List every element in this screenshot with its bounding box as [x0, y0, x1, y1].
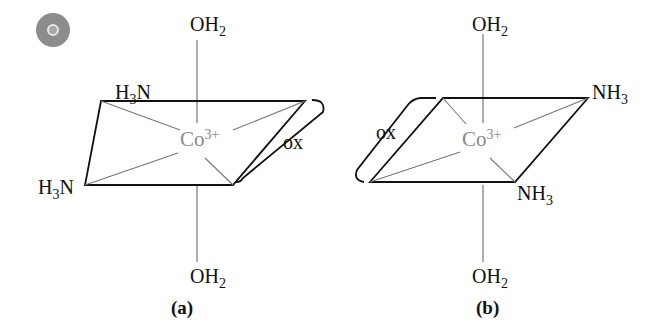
- panel-a-bidentate-label: ox: [283, 132, 303, 152]
- panel-a-ligand-lower-left: H3N: [38, 177, 74, 202]
- panel-b-top-ligand: OH2: [472, 14, 508, 39]
- panel-b-bidentate-label: ox: [376, 122, 396, 142]
- octahedral-structures-drawing: [0, 0, 651, 335]
- panel-a-ligand-upper-left: H3N: [115, 82, 151, 107]
- panel-a-bottom-ligand: OH2: [190, 266, 226, 291]
- panel-b-ligand-lower-right: NH3: [517, 183, 553, 208]
- panel-b-caption: (b): [476, 298, 499, 317]
- panel-b-metal-center: Co3+: [462, 128, 501, 150]
- panel-b-ligand-upper-right: NH3: [592, 82, 628, 107]
- panel-b-bottom-ligand: OH2: [472, 266, 508, 291]
- panel-a-metal-center: Co3+: [180, 128, 219, 150]
- panel-a-caption: (a): [171, 298, 193, 317]
- panel-a-top-ligand: OH2: [190, 14, 226, 39]
